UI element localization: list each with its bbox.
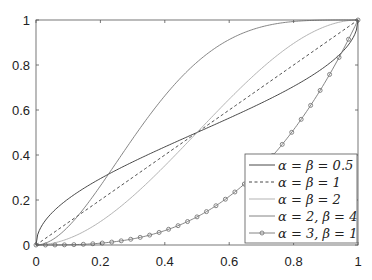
y-tick-label: 0.4 <box>12 148 30 163</box>
x-tick-label: 0.2 <box>91 254 109 269</box>
legend: α = β = 0.5α = β = 1α = β = 2α = 2, β = … <box>245 154 357 243</box>
y-tick-label: 0 <box>23 238 30 253</box>
x-tick-label: 0.6 <box>220 254 238 269</box>
y-tick-label: 0.8 <box>12 58 30 73</box>
x-tick-label: 0 <box>32 254 39 269</box>
legend-label: α = β = 1 <box>278 175 341 190</box>
legend-label: α = β = 0.5 <box>278 158 353 173</box>
x-tick-label: 0.8 <box>285 254 303 269</box>
y-tick-label: 0.6 <box>12 103 30 118</box>
legend-label: α = 3, β = 1 <box>278 226 357 241</box>
y-tick-label: 0.2 <box>12 193 30 208</box>
legend-label: α = β = 2 <box>278 192 341 207</box>
y-tick-label: 1 <box>23 13 30 28</box>
x-tick-label: 1 <box>354 254 361 269</box>
legend-label: α = 2, β = 4 <box>278 209 357 224</box>
beta-cdf-chart: 00.20.40.60.8100.20.40.60.81 α = β = 0.5… <box>0 0 372 280</box>
x-tick-label: 0.4 <box>156 254 174 269</box>
